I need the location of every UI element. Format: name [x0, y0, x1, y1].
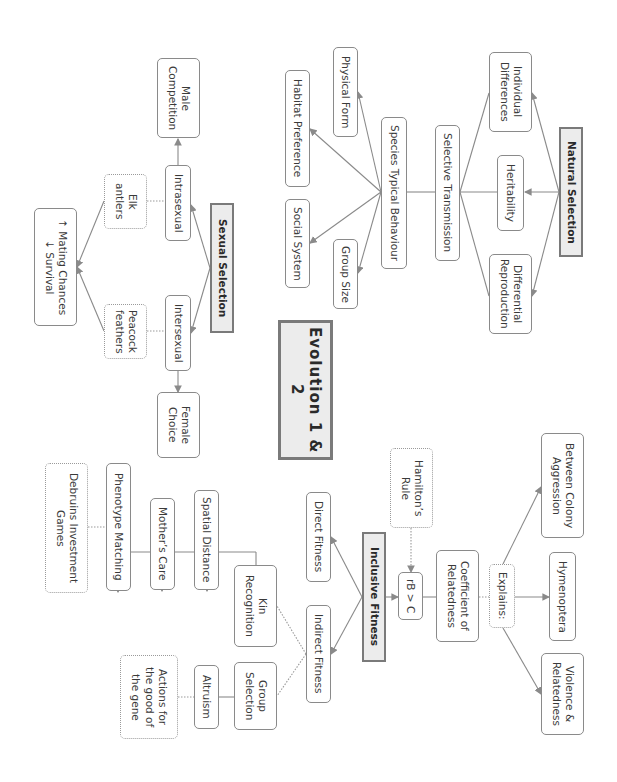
actions-gene-label: Actions for the good of the gene: [129, 667, 168, 727]
social-system-label: Social System: [291, 207, 304, 281]
heritability-label: Heritability: [504, 164, 517, 222]
physical-form-label: Physical Form: [339, 56, 352, 129]
mind-map-canvas: Evolution 1 & 2 Natural Selection Indivi…: [0, 0, 617, 782]
hymenoptera-label: Hymenoptera: [556, 561, 569, 633]
rule-formula-node: rB > C: [398, 572, 423, 620]
phenotype-matching-label: Phenotype Matching: [112, 473, 125, 581]
mating-survival-node: ↑ Mating Chances ↓ Survival: [34, 208, 77, 326]
inclusive-fitness-header: Inclusive Fitness: [362, 532, 386, 662]
individual-differences-label: Individual Differences: [497, 62, 523, 122]
group-size-node: Group Size: [333, 239, 358, 309]
title-box: Evolution 1 & 2: [278, 320, 333, 460]
group-selection-node: Group Selection: [234, 662, 277, 730]
natural-selection-header: Natural Selection: [559, 127, 583, 257]
phenotype-matching-node: Phenotype Matching: [106, 463, 131, 591]
direct-fitness-label: Direct Fitness: [312, 501, 325, 572]
direct-fitness-node: Direct Fitness: [306, 492, 331, 582]
differential-reproduction-node: Differential Reproduction: [489, 254, 532, 334]
species-typical-behaviour-label: Species Typical Behaviour: [387, 125, 400, 261]
elk-antlers-node: Elk antlers: [104, 174, 147, 229]
violence-relatedness-label: Violence & Relatedness: [549, 662, 575, 726]
sexual-selection-label: Sexual Selection: [215, 219, 228, 317]
spatial-distance-label: Spatial Distance: [200, 497, 213, 582]
spatial-distance-node: Spatial Distance: [194, 490, 219, 590]
indirect-fitness-label: Indirect Fitness: [312, 614, 325, 693]
intersexual-label: Intersexual: [171, 304, 184, 363]
explains-node: Explains:: [489, 564, 515, 628]
natural-selection-label: Natural Selection: [564, 141, 577, 244]
differential-reproduction-label: Differential Reproduction: [497, 259, 523, 329]
mothers-care-label: Mother’s Care: [156, 507, 169, 581]
kin-recognition-node: Kin Recognition: [234, 565, 277, 647]
debruins-games-node: Debruins Investment Games: [45, 463, 88, 593]
social-system-node: Social System: [285, 199, 310, 288]
debruins-games-label: Debruins Investment Games: [53, 473, 79, 583]
coefficient-of-relatedness-node: Coefficient of Relatedness: [436, 550, 479, 642]
intersexual-node: Intersexual: [165, 295, 191, 371]
group-selection-label: Group Selection: [242, 672, 268, 720]
physical-form-node: Physical Form: [333, 47, 358, 137]
habitat-preference-node: Habitat Preference: [285, 70, 310, 187]
intrasexual-node: Intrasexual: [165, 165, 191, 241]
sexual-selection-header: Sexual Selection: [210, 203, 234, 333]
female-choice-label: Female Choice: [165, 406, 191, 444]
altruism-label: Altruism: [200, 675, 213, 719]
violence-relatedness-node: Violence & Relatedness: [541, 653, 584, 735]
individual-differences-node: Individual Differences: [489, 52, 532, 132]
female-choice-node: Female Choice: [157, 392, 200, 458]
actions-gene-node: Actions for the good of the gene: [120, 655, 178, 739]
mating-survival-label: ↑ Mating Chances ↓ Survival: [42, 219, 68, 315]
habitat-preference-label: Habitat Preference: [291, 79, 304, 177]
between-colony-aggression-label: Between Colony Aggression: [549, 443, 575, 528]
selective-transmission-node: Selective Transmission: [435, 125, 460, 261]
species-typical-behaviour-node: Species Typical Behaviour: [381, 117, 407, 269]
hamiltons-rule-node: Hamilton’s Rule: [390, 448, 433, 528]
page-title: Evolution 1 & 2: [287, 323, 325, 457]
selective-transmission-label: Selective Transmission: [441, 133, 454, 252]
explains-label: Explains:: [495, 572, 508, 619]
elk-antlers-label: Elk antlers: [112, 183, 138, 219]
heritability-node: Heritability: [497, 155, 524, 231]
male-competition-node: Male Competition: [157, 58, 200, 138]
hymenoptera-node: Hymenoptera: [549, 552, 576, 641]
male-competition-label: Male Competition: [165, 66, 191, 130]
peacock-feathers-label: Peacock feathers: [112, 310, 138, 354]
kin-recognition-label: Kin Recognition: [242, 575, 268, 637]
mothers-care-node: Mother’s Care: [150, 498, 175, 590]
altruism-node: Altruism: [194, 665, 219, 729]
inclusive-fitness-label: Inclusive Fitness: [367, 547, 380, 646]
indirect-fitness-node: Indirect Fitness: [306, 605, 331, 703]
intrasexual-label: Intrasexual: [171, 174, 184, 233]
rule-formula-label: rB > C: [404, 579, 417, 613]
peacock-feathers-node: Peacock feathers: [104, 304, 147, 359]
coefficient-of-relatedness-label: Coefficient of Relatedness: [444, 561, 470, 631]
hamiltons-rule-label: Hamilton’s Rule: [398, 460, 424, 516]
group-size-label: Group Size: [339, 246, 352, 303]
between-colony-aggression-node: Between Colony Aggression: [541, 433, 584, 538]
